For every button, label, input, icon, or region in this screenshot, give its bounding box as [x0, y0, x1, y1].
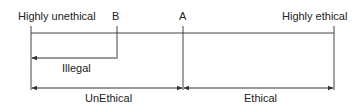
unethical-label: UnEthical — [85, 93, 132, 104]
point-a-label: A — [179, 11, 186, 22]
ethical-label: Ethical — [244, 93, 277, 104]
illegal-label: Illegal — [62, 63, 91, 74]
highly-unethical-label: Highly unethical — [18, 11, 96, 22]
point-b-label: B — [112, 11, 119, 22]
highly-ethical-label: Highly ethical — [282, 11, 347, 22]
